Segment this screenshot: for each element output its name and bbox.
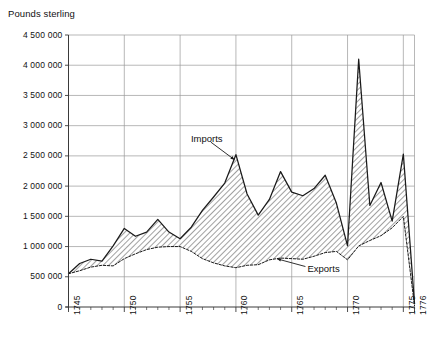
y-tick-label: 3 000 000	[0, 120, 63, 130]
y-tick-label: 0	[0, 302, 63, 312]
x-tick-label: 1776	[418, 295, 428, 315]
y-tick-label: 1 000 000	[0, 241, 63, 251]
x-tick-label: 1765	[295, 295, 305, 315]
x-tick-label: 1770	[351, 295, 361, 315]
x-tick-label: 1750	[128, 295, 138, 315]
y-tick-label: 3 500 000	[0, 90, 63, 100]
y-tick-label: 2 000 000	[0, 181, 63, 191]
y-tick-label: 4 500 000	[0, 30, 63, 40]
y-tick-label: 2 500 000	[0, 150, 63, 160]
y-tick-label: 4 000 000	[0, 60, 63, 70]
exports-annotation-label: Exports	[307, 263, 339, 274]
y-tick-label: 1 500 000	[0, 211, 63, 221]
y-tick-label: 500 000	[0, 271, 63, 281]
chart-container: Pounds sterling 0500 0001 000 0001 500 0…	[0, 0, 431, 351]
x-tick-label: 1755	[184, 295, 194, 315]
imports-annotation-label: Imports	[191, 133, 223, 144]
x-tick-label: 1745	[72, 295, 82, 315]
imports-exports-band	[69, 59, 415, 306]
chart-svg	[0, 0, 431, 351]
plot-area	[0, 0, 431, 351]
x-tick-label: 1775	[407, 295, 417, 315]
x-tick-label: 1760	[239, 295, 249, 315]
